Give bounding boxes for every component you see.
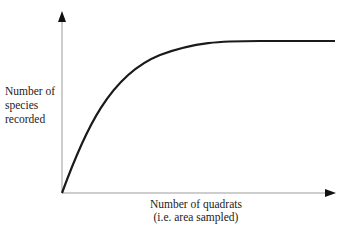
y-axis-label: Number of species recorded [5, 84, 55, 126]
y-axis-label-line: species [5, 98, 55, 112]
y-axis-label-line: Number of [5, 84, 55, 98]
x-axis-label: Number of quadrats (i.e. area sampled) [150, 198, 242, 224]
y-axis-arrow-icon [58, 11, 66, 22]
y-axis-label-line: recorded [5, 112, 55, 126]
x-axis-label-line: Number of quadrats [150, 198, 242, 211]
x-axis-label-line: (i.e. area sampled) [150, 211, 242, 224]
species-area-curve [62, 41, 335, 193]
x-axis-arrow-icon [325, 189, 336, 197]
